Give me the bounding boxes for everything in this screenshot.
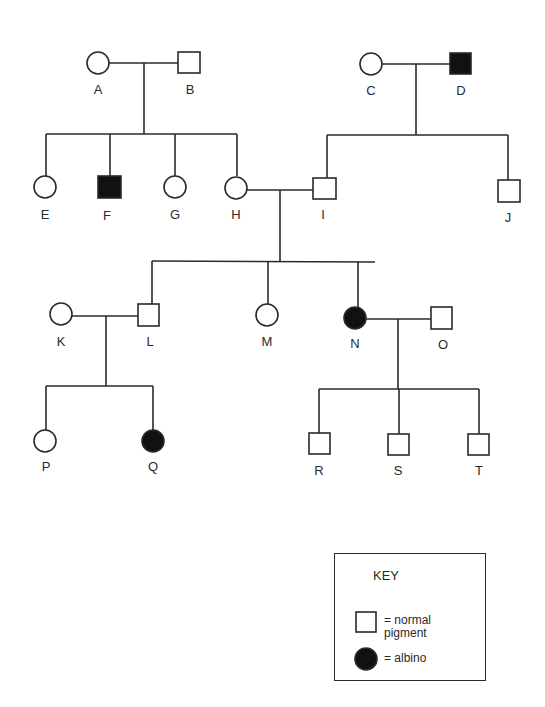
label-h: H (226, 207, 246, 222)
individual-l-male-normal (138, 304, 159, 326)
individual-e-female-normal (34, 176, 56, 198)
label-o: O (433, 337, 453, 352)
label-l: L (140, 334, 160, 349)
legend-normal-square-icon (356, 612, 376, 632)
legend-albino-circle-icon (355, 648, 377, 670)
individual-k-female-normal (50, 303, 72, 325)
label-d: D (451, 83, 471, 98)
individual-g-female-normal (164, 176, 186, 198)
label-n: N (345, 336, 365, 351)
individual-p-female-normal (34, 430, 56, 452)
individual-f-male-affected (98, 176, 121, 198)
individual-q-female-affected (142, 430, 164, 452)
label-f: F (97, 208, 117, 223)
legend-normal-label: = normal pigment (384, 614, 431, 640)
individual-b-male-normal (178, 52, 200, 73)
label-b: B (180, 82, 200, 97)
individual-s-male-normal (388, 434, 409, 455)
legend-key: KEY = normal pigment = albino (334, 553, 486, 681)
individual-i-male-normal (313, 178, 336, 199)
label-t: T (469, 463, 489, 478)
individual-r-male-normal (309, 433, 330, 454)
label-g: G (165, 207, 185, 222)
label-r: R (309, 463, 329, 478)
legend-albino-label: = albino (384, 652, 426, 665)
label-s: S (388, 463, 408, 478)
individual-t-male-normal (468, 434, 489, 455)
individual-c-female-normal (360, 53, 382, 75)
individual-d-male-affected (450, 53, 471, 74)
label-j: J (498, 210, 518, 225)
individual-j-male-normal (498, 180, 520, 202)
label-m: M (257, 334, 277, 349)
individual-m-female-normal (256, 304, 278, 326)
individual-o-male-normal (431, 307, 452, 329)
label-a: A (88, 82, 108, 97)
label-p: P (36, 459, 56, 474)
label-i: I (313, 207, 333, 222)
individual-h-female-normal (225, 177, 247, 199)
label-k: K (51, 334, 71, 349)
label-e: E (35, 207, 55, 222)
individual-a-female-normal (87, 52, 109, 74)
sibship-line-l-n (152, 261, 375, 262)
label-c: C (361, 83, 381, 98)
individual-n-female-affected (344, 307, 366, 329)
label-q: Q (143, 459, 163, 474)
legend-normal-line2: pigment (384, 627, 431, 640)
